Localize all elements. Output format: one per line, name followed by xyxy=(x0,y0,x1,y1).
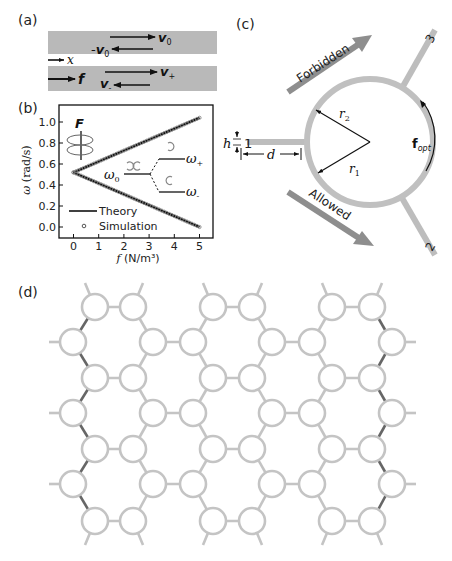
panel-d: (d) xyxy=(18,283,416,545)
cw-mode-plus-icon xyxy=(168,143,174,151)
y-tick-label: 0.0 xyxy=(39,221,57,234)
ring-resonator xyxy=(140,400,166,426)
r2-label: r2 xyxy=(339,107,350,123)
ring-resonator xyxy=(60,329,86,355)
x-axis-label: f (N/m³) xyxy=(115,252,159,265)
fopt-label: fopt xyxy=(412,136,432,153)
legend: Theory Simulation xyxy=(69,205,158,233)
ring-resonator xyxy=(140,471,166,497)
panel-b: (b) 0123450.00.20.40.60.81.0 ω (rad/s) f… xyxy=(18,100,213,265)
ring-resonator xyxy=(379,400,405,426)
ring-resonator xyxy=(120,508,146,534)
F-label: F xyxy=(75,116,84,131)
omega0-label: ω0 xyxy=(104,167,120,184)
ring-resonator xyxy=(359,508,385,534)
ring-resonator xyxy=(299,400,325,426)
y-tick-label: 0.4 xyxy=(39,179,57,192)
ring-resonator xyxy=(259,471,285,497)
legend-simulation-label: Simulation xyxy=(99,220,158,233)
ccw-mode-minus-icon xyxy=(166,177,172,185)
figure-canvas: (a) v0 -v0 x f v+ v- (b) 0123450.00.20.4… xyxy=(0,0,452,561)
omega-plus-label: ω+ xyxy=(186,151,203,168)
rotation-ellipse-bottom xyxy=(67,145,93,155)
ring-resonator xyxy=(120,436,146,462)
y-tick-label: 0.6 xyxy=(39,158,57,171)
ring-resonator xyxy=(180,329,206,355)
ring-resonator xyxy=(259,329,285,355)
ring-resonator xyxy=(120,365,146,391)
x-axis-label: x xyxy=(67,53,74,67)
ring-resonator xyxy=(82,508,108,534)
y-axis-label: ω (rad/s) xyxy=(20,145,33,194)
ring-resonator xyxy=(82,294,108,320)
panel-c: (c) Forbidden Allowed 1 2 3 r2 r1 h d xyxy=(223,16,438,255)
ring-resonator xyxy=(379,471,405,497)
rotation-ellipse-top xyxy=(67,135,93,145)
y-tick-label: 0.2 xyxy=(39,200,57,213)
ring-resonator xyxy=(239,294,265,320)
ring-resonator xyxy=(120,294,146,320)
ring-resonator xyxy=(200,508,226,534)
h-label: h xyxy=(223,136,231,151)
ring-resonator xyxy=(60,471,86,497)
ring-resonator xyxy=(180,471,206,497)
ring-resonator xyxy=(379,329,405,355)
lattice-links xyxy=(49,283,416,545)
ring-resonator xyxy=(180,400,206,426)
ring-resonator xyxy=(359,294,385,320)
ring-resonator xyxy=(359,436,385,462)
x-tick-label: 1 xyxy=(95,240,102,253)
y-tick-label: 1.0 xyxy=(39,116,57,129)
panel-d-label: (d) xyxy=(18,284,38,300)
lattice-rings xyxy=(60,294,405,534)
ring-resonator xyxy=(239,436,265,462)
ring-resonator xyxy=(200,294,226,320)
panel-a: (a) v0 -v0 x f v+ v- xyxy=(18,12,217,93)
ring-resonator xyxy=(200,436,226,462)
ring-resonator xyxy=(319,294,345,320)
panel-a-label: (a) xyxy=(18,12,38,28)
x-tick-label: 4 xyxy=(171,240,178,253)
ring-resonator xyxy=(319,436,345,462)
split-dash-down xyxy=(150,174,159,192)
ring-resonator xyxy=(239,508,265,534)
r1-arrow xyxy=(318,142,370,173)
d-label: d xyxy=(267,147,275,162)
ring-resonator xyxy=(319,508,345,534)
ring-resonator xyxy=(299,471,325,497)
ring-resonator xyxy=(200,365,226,391)
x-tick-label: 0 xyxy=(70,240,77,253)
ring-resonator xyxy=(60,400,86,426)
x-tick-label: 5 xyxy=(196,240,203,253)
forbidden-label: Forbidden xyxy=(294,41,352,85)
ring-resonator xyxy=(82,436,108,462)
ring-resonator xyxy=(259,400,285,426)
upper-waveguide-bar xyxy=(48,31,217,54)
legend-theory-label: Theory xyxy=(98,205,138,218)
panel-c-label: (c) xyxy=(236,16,255,32)
ring-resonator xyxy=(82,365,108,391)
ring-resonator xyxy=(239,365,265,391)
split-dash-up xyxy=(150,159,159,174)
ring-resonator xyxy=(319,365,345,391)
ring-resonator xyxy=(299,329,325,355)
rotation-force-inset: F xyxy=(67,116,93,160)
y-tick-label: 0.8 xyxy=(39,137,57,150)
ring-resonator xyxy=(140,329,166,355)
ring-resonator xyxy=(359,365,385,391)
port-1-label: 1 xyxy=(244,136,252,151)
panel-b-label: (b) xyxy=(18,100,38,116)
r1-label: r1 xyxy=(349,162,360,178)
legend-simulation-swatch xyxy=(82,224,86,228)
omega-minus-label: ω- xyxy=(186,184,200,201)
